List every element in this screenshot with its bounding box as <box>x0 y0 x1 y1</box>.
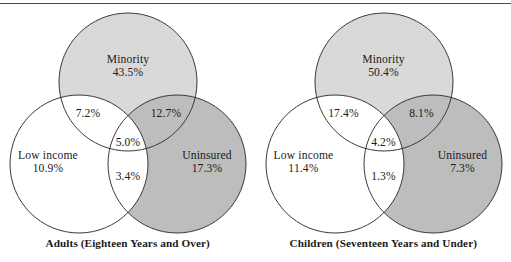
venn-figure: Minority 43.5% Low income 10.9% Uninsure… <box>0 0 511 262</box>
venn-stage-children: Minority 50.4% Low income 11.4% Uninsure… <box>256 8 511 234</box>
panel-caption-adults: Adults (Eighteen Years and Over) <box>0 237 256 249</box>
venn-panel-children: Minority 50.4% Low income 11.4% Uninsure… <box>256 0 511 262</box>
venn-panel-adults: Minority 43.5% Low income 10.9% Uninsure… <box>0 0 256 262</box>
venn-diagram-adults <box>0 8 256 234</box>
venn-stage-adults: Minority 43.5% Low income 10.9% Uninsure… <box>0 8 256 234</box>
panel-caption-children: Children (Seventeen Years and Under) <box>256 237 511 249</box>
venn-diagram-children <box>256 8 511 234</box>
